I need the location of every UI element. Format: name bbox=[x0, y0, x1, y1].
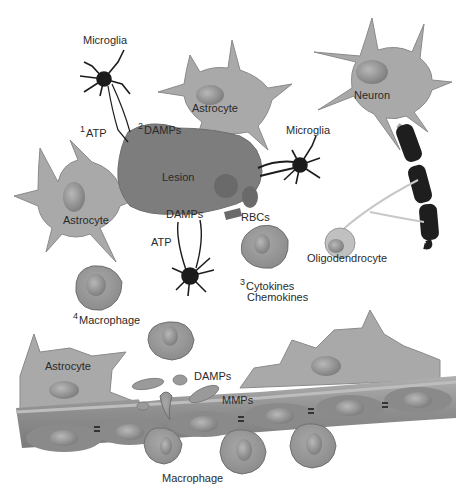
label-microglia-right: Microglia bbox=[286, 124, 330, 136]
step-number-4: 4 bbox=[73, 311, 78, 321]
label-astrocyte-bottom: Astrocyte bbox=[45, 360, 91, 372]
label-rbcs: RBCs bbox=[241, 211, 270, 223]
label-damps-2: 2DAMPs bbox=[138, 120, 181, 136]
label-microglia-top: Microglia bbox=[83, 34, 127, 46]
label-lesion: Lesion bbox=[162, 171, 194, 183]
lesion-diagram bbox=[0, 0, 470, 498]
label-astrocyte-left: Astrocyte bbox=[63, 214, 109, 226]
label-cytokines: 3Cytokines bbox=[240, 276, 294, 292]
damps-text: DAMPs bbox=[144, 124, 181, 136]
macrophage-text: Macrophage bbox=[79, 314, 140, 326]
label-oligodendrocyte: Oligodendrocyte bbox=[307, 252, 387, 264]
step-number-2: 2 bbox=[138, 121, 143, 131]
label-atp-lower: ATP bbox=[151, 236, 172, 248]
neuron bbox=[314, 18, 452, 246]
microglia-right bbox=[258, 136, 320, 184]
label-macrophage-4: 4Macrophage bbox=[73, 310, 140, 326]
label-macrophage-bottom: Macrophage bbox=[162, 472, 223, 484]
label-neuron: Neuron bbox=[354, 89, 390, 101]
oligodendrocyte bbox=[325, 180, 424, 258]
label-damps-lesion: DAMPs bbox=[166, 208, 203, 220]
step-number-3: 3 bbox=[240, 277, 245, 287]
label-atp-1: 1ATP bbox=[80, 123, 107, 139]
label-mmps: MMPs bbox=[222, 394, 253, 406]
astrocyte-bottom-right bbox=[240, 310, 440, 388]
microglia-bottom bbox=[172, 220, 214, 296]
label-chemokines: Chemokines bbox=[247, 291, 308, 303]
atp-text: ATP bbox=[86, 127, 107, 139]
step-number-1: 1 bbox=[80, 124, 85, 134]
astrocyte-bottom-left bbox=[20, 334, 136, 410]
label-damps-vessel: DAMPs bbox=[194, 370, 231, 382]
label-astrocyte-top: Astrocyte bbox=[192, 102, 238, 114]
